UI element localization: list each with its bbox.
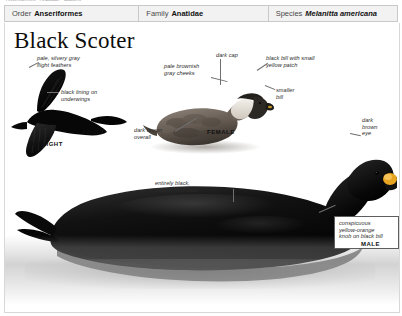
annotation-knob: conspicuous yellow-orange knob on black … xyxy=(339,220,399,240)
female-eye xyxy=(259,102,261,104)
annotation-dark-cap: dark cap xyxy=(216,52,262,59)
male-flank-sheen xyxy=(213,216,317,240)
leader-line-male-body xyxy=(233,189,234,202)
stage-label-female: FEMALE xyxy=(207,129,235,135)
taxonomy-label-order: Order xyxy=(12,9,31,18)
taxonomy-value-species: Melanitta americana xyxy=(305,9,377,18)
stage-label-in-flight: IN FLIGHT xyxy=(29,141,63,147)
leader-line-underwing-lining xyxy=(47,92,59,93)
male-eye-highlight xyxy=(376,172,377,173)
black-scoter-female-illustration xyxy=(143,89,275,155)
male-bill-knob-highlight xyxy=(384,174,392,180)
annotation-male-body: entirely black, heavily built body xyxy=(155,180,233,193)
stage-label-male: MALE xyxy=(361,241,380,247)
annotation-underwing-lining: black lining on underwings xyxy=(61,89,127,102)
illustration-plate: Black Scoter xyxy=(4,23,400,313)
taxonomy-value-order: Anseriformes xyxy=(34,9,82,18)
flight-head-and-bill xyxy=(91,116,127,125)
clipped-running-header-text: Anseriformes • Anatidae • Scoters xyxy=(6,0,266,2)
taxonomy-label-species: Species xyxy=(276,9,303,18)
taxonomy-label-family: Family xyxy=(146,9,168,18)
leader-line-male-eye xyxy=(350,133,361,136)
taxonomy-bar: Order Anseriformes Family Anatidae Speci… xyxy=(4,5,398,22)
stage-label-adult: ADULT xyxy=(82,129,104,135)
annotation-female-cheeks: pale brownish gray cheeks xyxy=(164,63,222,76)
annotation-smaller-bill: smaller bill xyxy=(276,87,310,100)
taxonomy-value-family: Anatidae xyxy=(171,9,203,18)
annotation-female-bill: black bill with small yellow patch xyxy=(266,55,344,68)
taxonomy-cell-family: Family Anatidae xyxy=(138,5,267,22)
flight-tail xyxy=(11,122,27,129)
taxonomy-cell-order: Order Anseriformes xyxy=(5,5,138,22)
annotation-flight-feathers: pale, silvery gray flight feathers xyxy=(37,55,107,68)
page-title: Black Scoter xyxy=(14,29,135,52)
male-eye xyxy=(375,171,379,175)
taxonomy-cell-species: Species Melanitta americana xyxy=(268,5,397,22)
female-bill-yellow-patch xyxy=(268,106,272,109)
annotation-female-overall: dark brown overall xyxy=(134,127,180,140)
annotation-male-eye: dark brown eye xyxy=(362,117,394,137)
